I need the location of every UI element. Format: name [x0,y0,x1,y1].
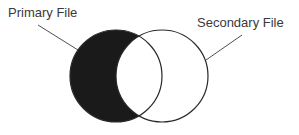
primary-leader-line [38,25,78,50]
secondary-leader-line [206,35,242,60]
venn-diagram: Primary File Secondary File [0,0,299,135]
secondary-file-label: Secondary File [197,15,284,30]
primary-file-label: Primary File [8,5,77,20]
